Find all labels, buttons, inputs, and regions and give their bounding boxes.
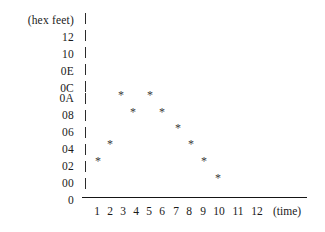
x-axis-units-label: (time) (273, 205, 301, 218)
x-axis-tick-label: 12 (247, 205, 267, 218)
data-point-series: * * * * * * * * * * (0, 0, 325, 200)
data-point: * (92, 155, 104, 167)
x-axis-tick-labels: 1 2 3 4 5 6 7 8 9 10 11 12 (time) (0, 205, 325, 221)
data-point: * (127, 106, 139, 118)
data-point: * (156, 106, 168, 118)
x-axis-line (82, 197, 307, 198)
data-point: * (115, 89, 127, 101)
x-axis-tick-label: 10 (209, 205, 229, 218)
data-point: * (185, 138, 197, 150)
data-point: * (212, 172, 224, 184)
data-point: * (104, 138, 116, 150)
data-point: * (144, 89, 156, 101)
chart-canvas: (hex feet) 12 10 0E 0C 0A 08 06 04 02 00… (0, 0, 325, 232)
x-axis-tick-label: 11 (228, 205, 248, 218)
data-point: * (172, 122, 184, 134)
data-point: * (198, 155, 210, 167)
